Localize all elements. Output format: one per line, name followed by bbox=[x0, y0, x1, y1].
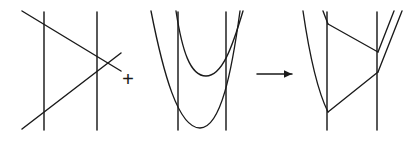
panel-right-bottom-to-lower-right-edge bbox=[328, 72, 378, 112]
panel-middle-upper-parabola bbox=[176, 11, 243, 76]
panel-right bbox=[303, 11, 402, 130]
panel-right-upper-right-ray bbox=[378, 11, 394, 52]
arrow-operator bbox=[257, 70, 292, 78]
panel-middle bbox=[151, 11, 243, 130]
panel-left-ascending-diagonal bbox=[22, 53, 121, 129]
panel-left-descending-diagonal bbox=[22, 11, 121, 71]
panel-left bbox=[22, 11, 121, 130]
plus-operator: + bbox=[122, 67, 134, 91]
arrow-head bbox=[284, 70, 292, 78]
panel-right-left-outer-arc bbox=[303, 11, 328, 112]
diagram-canvas: + bbox=[0, 0, 409, 141]
tropical-curve-diagram: + bbox=[0, 0, 409, 141]
panel-right-top-to-upper-right-edge bbox=[328, 24, 378, 52]
